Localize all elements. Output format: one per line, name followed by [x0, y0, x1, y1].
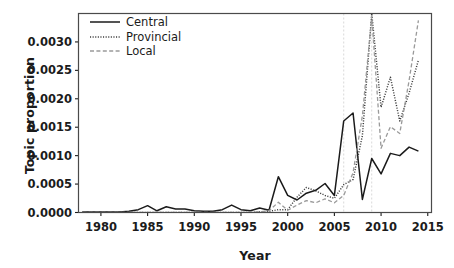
y-tick-label: 0.0025: [10, 63, 72, 77]
x-tick-label: 2010: [365, 220, 397, 234]
legend-line-sample-central: [90, 17, 120, 27]
legend-line-sample-local: [90, 46, 120, 56]
x-tick-label: 1995: [225, 220, 257, 234]
y-tick-label: 0.0020: [10, 92, 72, 106]
chart-figure: Topic proportion Year 0.00000.00050.0010…: [0, 0, 454, 268]
x-tick-label: 2015: [412, 220, 444, 234]
legend-label-local: Local: [126, 44, 156, 58]
legend-label-provincial: Provincial: [126, 30, 181, 44]
x-tick-label: 1980: [85, 220, 117, 234]
x-tick-label: 1985: [132, 220, 164, 234]
y-tick-label: 0.0010: [10, 149, 72, 163]
y-tick-label: 0.0000: [10, 206, 72, 220]
x-tick-label: 2000: [272, 220, 304, 234]
series-line-central: [82, 113, 418, 212]
y-tick-label: 0.0015: [10, 120, 72, 134]
y-tick-label: 0.0005: [10, 177, 72, 191]
y-axis-label: Topic proportion: [22, 31, 37, 201]
legend-label-central: Central: [126, 15, 168, 29]
x-tick-label: 2005: [318, 220, 350, 234]
y-tick-label: 0.0030: [10, 35, 72, 49]
x-tick-label: 1990: [178, 220, 210, 234]
x-axis-label: Year: [78, 248, 432, 263]
legend-line-sample-provincial: [90, 32, 120, 42]
